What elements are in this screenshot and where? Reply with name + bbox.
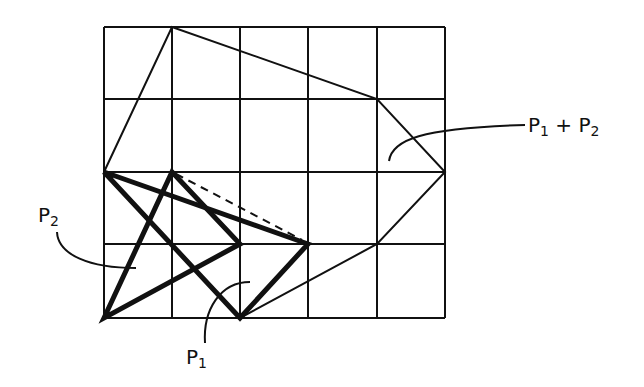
label-sum-sub1: 1: [540, 123, 549, 139]
grid: [104, 27, 445, 318]
leader-line-p2: [57, 232, 136, 268]
label-p2-sub: 2: [50, 213, 59, 229]
leader-line-sum: [389, 125, 525, 161]
label-sum-p2: P: [578, 113, 590, 137]
label-p1: P1: [186, 345, 207, 371]
label-p2-base: P: [38, 203, 50, 227]
label-p1-plus-p2: P1 + P2: [528, 113, 599, 139]
label-sum-p: P: [528, 113, 540, 137]
label-p2: P2: [38, 203, 59, 229]
diagram-canvas: [0, 0, 644, 387]
label-p1-sub: 1: [198, 355, 207, 371]
label-sum-plus: +: [555, 113, 572, 137]
label-p1-base: P: [186, 345, 198, 369]
label-sum-sub2: 2: [591, 123, 600, 139]
